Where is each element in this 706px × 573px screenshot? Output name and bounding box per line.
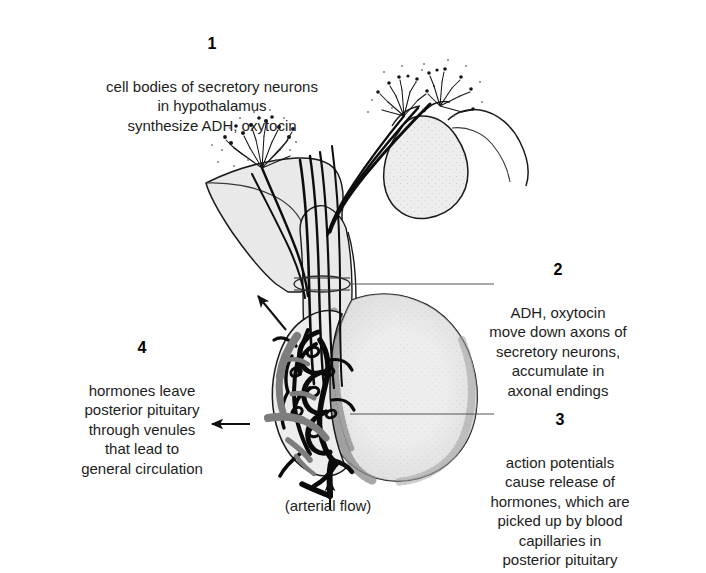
diagram-figure: 1 cell bodies of secretory neurons in hy…	[0, 0, 706, 573]
callout-4-number: 4	[14, 338, 270, 359]
callout-1: 1 cell bodies of secretory neurons in hy…	[62, 14, 362, 155]
callout-1-number: 1	[62, 34, 362, 55]
optic-chiasm-structure	[384, 101, 528, 218]
arterial-flow-caption: (arterial flow)	[228, 497, 428, 514]
callout-3-number: 3	[424, 410, 696, 431]
callout-2-number: 2	[424, 260, 692, 281]
callout-4: 4 hormones leave posterior pituitary thr…	[14, 318, 270, 498]
callout-3-text: action potentials cause release of hormo…	[424, 453, 696, 570]
callout-4-text: hormones leave posterior pituitary throu…	[14, 381, 270, 479]
callout-3: 3 action potentials cause release of hor…	[424, 390, 696, 573]
callout-1-text: cell bodies of secretory neurons in hypo…	[62, 77, 362, 136]
callout-2-text: ADH, oxytocin move down axons of secreto…	[424, 303, 692, 401]
